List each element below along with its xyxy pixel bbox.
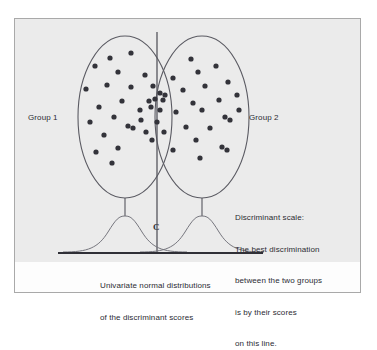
- distribution-caption-line-1: Univariate normal distributions: [100, 281, 211, 292]
- group-2-label: Group 2: [249, 113, 279, 124]
- group-2-points: [161, 56, 241, 160]
- discriminant-note-line-2: The best discrimination: [235, 245, 322, 256]
- distribution-caption: Univariate normal distributions of the d…: [100, 260, 211, 344]
- group-1-label: Group 1: [28, 113, 58, 124]
- discriminant-note-line-1: Discriminant scale:: [235, 213, 322, 224]
- group-2-ellipse: [155, 36, 249, 198]
- discriminant-scale-note: Discriminant scale: The best discriminat…: [235, 192, 322, 350]
- discriminant-note-line-5: on this line.: [235, 339, 322, 350]
- discriminant-note-line-3: between the two groups: [235, 276, 322, 287]
- discriminant-note-line-4: is by their scores: [235, 308, 322, 319]
- group-1-normal-curve: [63, 216, 187, 252]
- group-1-ellipse: [78, 36, 172, 198]
- distribution-caption-line-2: of the discriminant scores: [100, 313, 211, 324]
- cutoff-point-label: C: [153, 222, 160, 233]
- group-1-points: [83, 50, 154, 165]
